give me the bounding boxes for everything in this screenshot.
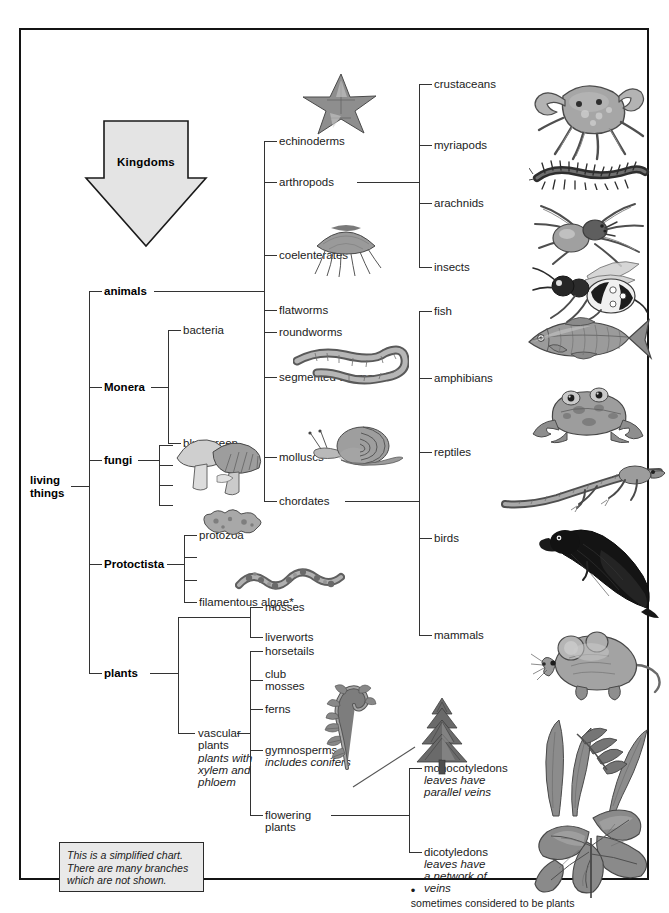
flowering-spine [409,768,410,852]
root-label-line2: things [30,487,65,500]
footnote-bullet-icon: • [411,883,416,898]
vascular-plants-sub-line2: xylem and [198,764,250,777]
plant-ferns[interactable]: ferns [265,703,291,716]
dicot-leaf-illustration [527,802,659,900]
plant-liverworts[interactable]: liverworts [265,631,314,644]
monera-child-bacteria[interactable]: bacteria [183,324,224,337]
algae-illustration [235,565,345,603]
note-line1: This is a simplified chart. [67,849,196,862]
monera-stem [151,387,168,388]
kingdom-plants[interactable]: plants [104,667,138,680]
kingdoms-arrow: Kingdoms [84,120,208,248]
class-mammals[interactable]: mammals [434,629,484,642]
tick-amphibians [419,378,432,379]
nonvascular-spine [250,607,251,637]
kingdom-protoctista[interactable]: Protoctista [104,558,164,571]
starfish-illustration [297,70,381,136]
tick-mammals [419,635,432,636]
tick-horsetails [250,651,263,652]
animals-connector [154,291,264,292]
dicot-sub-line1: leaves have [424,858,485,871]
lizard-illustration [501,460,667,520]
plants-stem [150,673,178,674]
tick-coelenterates [264,255,277,256]
class-myriapods[interactable]: myriapods [434,139,487,152]
tick-ferns [250,709,263,710]
tick-gymnosperms [250,750,263,751]
chart-frame: Kingdoms living things animals Monera fu… [19,28,649,880]
root-spine [89,291,90,673]
protoctista-spine [184,535,185,602]
fungi-stub-2 [159,465,173,466]
tick-animals [89,291,102,292]
fungi-stem [138,460,159,461]
fish-illustration [521,308,653,368]
vascular-plants-sub-line3: phloem [198,776,236,789]
class-arachnids[interactable]: arachnids [434,197,484,210]
phylum-echinoderms[interactable]: echinoderms [279,135,345,148]
millipede-illustration [529,160,651,190]
class-insects[interactable]: insects [434,261,470,274]
vascular-spine [250,651,251,815]
kingdom-fungi[interactable]: fungi [104,454,132,467]
tick-flatworms [264,310,277,311]
tick-club-mosses [250,680,263,681]
bird-illustration [531,520,661,620]
protoctista-stub-2 [184,557,197,558]
class-amphibians[interactable]: amphibians [434,372,493,385]
tick-plants [89,673,102,674]
phylum-chordates[interactable]: chordates [279,495,330,508]
tick-crustaceans [419,84,432,85]
vascular-plants-title-line2: plants [198,739,229,752]
jellyfish-illustration [307,220,385,278]
tick-monera [89,387,102,388]
tick-chordates [264,501,277,502]
tick-segmented-worms [264,377,277,378]
tick-myriapods [419,145,432,146]
tick-filamentous-algae [184,602,197,603]
tick-fungi [89,460,102,461]
phylum-arthropods[interactable]: arthropods [279,176,334,189]
kingdom-animals[interactable]: animals [104,285,147,298]
kingdom-monera[interactable]: Monera [104,381,145,394]
fungi-stub-4 [159,505,173,506]
tick-dicotyledons [409,852,422,853]
class-fish[interactable]: fish [434,305,452,318]
fungi-stub-1 [159,445,173,446]
tick-protozoa [184,535,197,536]
tick-birds [419,538,432,539]
mouse-illustration [531,622,663,702]
plant-flowering-line2: plants [265,821,296,834]
tick-arachnids [419,203,432,204]
plant-flowering-line1[interactable]: flowering [265,809,311,822]
kingdoms-arrow-label: Kingdoms [84,156,208,168]
phylum-roundworms[interactable]: roundworms [279,326,342,339]
phylum-flatworms[interactable]: flatworms [279,304,328,317]
protozoa-illustration [199,506,265,538]
vascular-plants-title-line1[interactable]: vascular [198,727,241,740]
class-reptiles[interactable]: reptiles [434,446,471,459]
root-label-line1: living [30,474,60,487]
tick-flowering-plants [250,815,263,816]
mushroom-illustration [173,436,267,498]
tick-bacteria [168,330,181,331]
class-dicotyledons[interactable]: dicotyledons [424,846,488,859]
snail-illustration [301,424,405,466]
tick-insects [419,267,432,268]
tick-reptiles [419,452,432,453]
chordate-classes-spine [419,311,420,635]
monera-spine [168,330,169,443]
chordates-connector [345,501,419,502]
fern-illustration [313,680,383,770]
frog-illustration [527,382,647,444]
class-crustaceans[interactable]: crustaceans [434,78,496,91]
plant-horsetails[interactable]: horsetails [265,645,314,658]
root-stem-line [71,486,89,487]
class-birds[interactable]: birds [434,532,459,545]
monocot-sub-line2: parallel veins [424,786,491,799]
note-line3: which are not shown. [67,874,196,887]
arthropods-connector [357,182,419,183]
plant-club-mosses-line1[interactable]: club [265,668,286,681]
vascular-connector [237,733,250,734]
tick-mosses [250,607,263,608]
